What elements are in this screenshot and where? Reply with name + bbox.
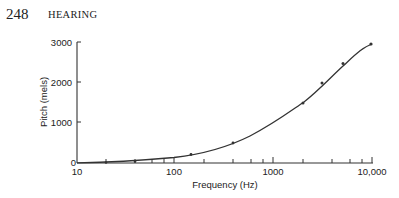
fitted-curve <box>77 44 372 163</box>
x-tick-label: 1000 <box>262 166 283 177</box>
data-point <box>134 160 137 163</box>
x-tick-label: 100 <box>166 166 182 177</box>
data-point <box>105 161 108 164</box>
x-tick-label: 10 <box>72 166 83 177</box>
y-ticks <box>77 42 81 122</box>
y-tick-label: 3000 <box>51 37 72 48</box>
data-point <box>369 42 372 45</box>
y-tick-label: 2000 <box>51 77 72 88</box>
data-points <box>105 42 373 163</box>
x-tick-label: 10,000 <box>357 166 386 177</box>
y-tick-label: 1000 <box>51 117 72 128</box>
x-axis-title: Frequency (Hz) <box>192 179 257 190</box>
data-point <box>342 62 345 65</box>
mel-scale-chart: 3000 2000 1000 0 10 100 1000 10,000 Freq… <box>0 0 399 198</box>
data-point <box>190 153 193 156</box>
data-point <box>321 82 324 85</box>
y-tick-labels: 3000 2000 1000 0 <box>51 37 76 168</box>
data-point <box>232 142 235 145</box>
x-tick-labels: 10 100 1000 10,000 <box>72 166 387 177</box>
y-axis-title: Pitch (mels) <box>38 77 49 127</box>
data-point <box>302 102 305 105</box>
